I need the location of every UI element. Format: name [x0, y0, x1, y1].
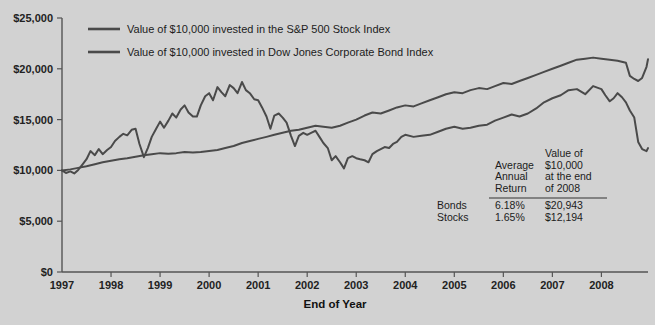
- table-cell-annual-return: 6.18%: [495, 199, 525, 211]
- y-axis-tick-label: $10,000: [13, 164, 53, 176]
- table-row-label: Stocks: [437, 211, 469, 223]
- x-axis-tick-label: 2006: [491, 279, 515, 291]
- chart-legend: Value of $10,000 invested in the S&P 500…: [88, 23, 434, 58]
- y-axis-tick-label: $15,000: [13, 114, 53, 126]
- x-axis-tick-label: 2000: [197, 279, 221, 291]
- y-axis: $0$5,000$10,000$15,000$20,000$25,000: [13, 12, 62, 278]
- x-axis-tick-label: 2005: [442, 279, 466, 291]
- x-axis-tick-label: 2002: [295, 279, 319, 291]
- y-axis-tick-label: $25,000: [13, 12, 53, 24]
- table-header-return-line: Annual: [495, 170, 528, 182]
- table-row-label: Bonds: [437, 199, 467, 211]
- legend-label-stocks: Value of $10,000 invested in the S&P 500…: [127, 23, 391, 35]
- x-axis-tick-label: 2004: [393, 279, 418, 291]
- legend-label-bonds: Value of $10,000 invested in Dow Jones C…: [127, 46, 434, 58]
- y-axis-tick-label: $0: [41, 266, 53, 278]
- summary-table: Value of$10,000at the endof 2008AverageA…: [437, 147, 607, 223]
- x-axis-tick-label: 2007: [540, 279, 564, 291]
- y-axis-tick-label: $20,000: [13, 63, 53, 75]
- x-axis-tick-label: 2008: [589, 279, 613, 291]
- table-header-return-line: Return: [495, 182, 527, 194]
- x-axis-tick-label: 1997: [50, 279, 74, 291]
- x-axis-tick-label: 1999: [148, 279, 172, 291]
- table-header-value-line: $10,000: [545, 159, 583, 171]
- table-cell-annual-return: 1.65%: [495, 211, 525, 223]
- table-header-value-line: Value of: [545, 147, 583, 159]
- x-axis-tick-label: 2003: [344, 279, 368, 291]
- table-cell-end-value: $20,943: [545, 199, 583, 211]
- table-header-value-line: at the end: [545, 170, 592, 182]
- x-axis: 1997199819992000200120022003200420052006…: [50, 272, 648, 291]
- table-header-return-line: Average: [495, 159, 534, 171]
- stock-vs-bond-growth-chart: Value of $10,000 invested in the S&P 500…: [0, 0, 655, 325]
- y-axis-tick-label: $5,000: [19, 215, 53, 227]
- x-axis-tick-label: 1998: [99, 279, 123, 291]
- x-axis-title: End of Year: [303, 298, 367, 310]
- table-cell-end-value: $12,194: [545, 211, 583, 223]
- chart-canvas: Value of $10,000 invested in the S&P 500…: [0, 0, 655, 325]
- table-header-value-line: of 2008: [545, 182, 580, 194]
- x-axis-tick-label: 2001: [246, 279, 270, 291]
